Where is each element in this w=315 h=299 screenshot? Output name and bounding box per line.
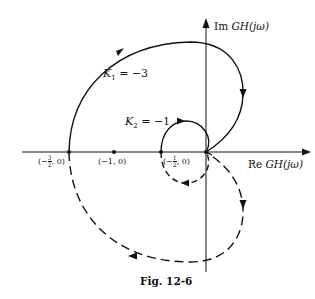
point-minus-one-half: [159, 150, 163, 154]
k1-direction-arrow-icon: [240, 200, 247, 209]
point-label-prefix: (−: [38, 157, 48, 166]
imag-axis-label-func: GH(jω): [231, 20, 269, 32]
real-axis-label: Re GH(jω): [248, 158, 303, 170]
point-label-suffix: , 0): [52, 157, 65, 166]
point-label-prefix: (−: [163, 157, 173, 166]
k1-label: K1 = −3: [103, 67, 148, 82]
point-label-minus-one-half: (−12, 0): [163, 155, 190, 168]
k1-direction-arrow-icon: [128, 253, 137, 260]
k1-label-val: = −3: [116, 67, 148, 80]
k1-label-var: K: [103, 67, 111, 80]
real-axis-label-prefix: Re: [248, 158, 265, 170]
real-axis-arrow-icon: [302, 149, 311, 156]
point-origin: [204, 150, 208, 154]
point-label-suffix: , 0): [177, 157, 190, 166]
k2-label: K2 = −1: [125, 115, 170, 130]
point-minus-one: [112, 150, 116, 154]
k1-direction-arrow-icon: [116, 48, 124, 56]
imag-axis-label: Im GH(jω): [214, 20, 269, 32]
point-label-minus-three-halves: (−32, 0): [38, 155, 65, 168]
k1-lower-curve: [69, 152, 243, 262]
point-minus-three-halves: [67, 150, 71, 154]
point-label-minus-one: (−1, 0): [98, 157, 126, 166]
k2-label-var: K: [125, 115, 133, 128]
figure-caption: Fig. 12-6: [140, 275, 192, 287]
real-axis-label-func: GH(jω): [265, 158, 303, 170]
k2-direction-arrow-icon: [181, 180, 189, 187]
imag-axis-arrow-icon: [203, 18, 210, 28]
k2-label-val: = −1: [138, 115, 170, 128]
k2-direction-arrow-icon: [177, 118, 185, 125]
imag-axis-label-prefix: Im: [214, 20, 231, 32]
nyquist-diagram: [0, 0, 315, 299]
k1-upper-curve: [69, 42, 243, 152]
k1-direction-arrow-icon: [240, 89, 247, 98]
